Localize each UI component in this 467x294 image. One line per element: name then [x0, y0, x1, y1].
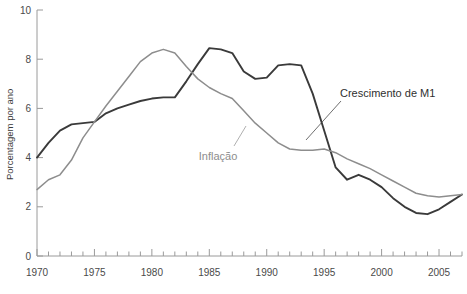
y-axis-title: Porcentagem por ano	[4, 89, 15, 180]
x-tick-label: 1980	[141, 267, 164, 278]
series-label-inflacao: Inflação	[199, 150, 238, 162]
x-tick-label: 1970	[26, 267, 49, 278]
x-tick-label: 2000	[370, 267, 393, 278]
x-tick-label: 2005	[428, 267, 451, 278]
x-axis: 19701975198019851990199520002005	[26, 249, 462, 278]
y-tick-label: 4	[25, 152, 31, 163]
line-chart: 0246810 19701975198019851990199520002005…	[0, 0, 467, 294]
series-line-inflacao	[37, 49, 462, 197]
leader-line-m1	[306, 101, 341, 140]
y-tick-group: 0246810	[20, 5, 43, 262]
x-tick-label: 1985	[198, 267, 221, 278]
y-tick-label: 0	[25, 251, 31, 262]
y-tick-label: 2	[25, 201, 31, 212]
y-tick-label: 10	[20, 5, 32, 16]
y-axis: 0246810	[20, 5, 43, 262]
x-tick-label: 1990	[256, 267, 279, 278]
series-group	[37, 48, 462, 214]
x-tick-label: 1975	[83, 267, 106, 278]
leader-line-inflacao	[234, 126, 246, 146]
chart-container: 0246810 19701975198019851990199520002005…	[0, 0, 467, 294]
annotation-group: Crescimento de M1 Inflação	[199, 87, 436, 162]
y-tick-label: 8	[25, 54, 31, 65]
series-line-crescimento-m1	[37, 48, 462, 214]
y-tick-label: 6	[25, 103, 31, 114]
x-tick-label: 1995	[313, 267, 336, 278]
series-label-crescimento-m1: Crescimento de M1	[340, 87, 435, 99]
x-tick-group: 19701975198019851990199520002005	[26, 249, 462, 278]
